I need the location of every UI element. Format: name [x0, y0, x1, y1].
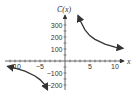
svg-text:−200: −200	[47, 82, 63, 89]
svg-text:300: 300	[51, 22, 63, 29]
y-axis-label: C̄(x)	[57, 5, 72, 14]
svg-text:10: 10	[111, 63, 119, 70]
svg-text:5: 5	[88, 63, 92, 70]
svg-text:−5: −5	[36, 63, 44, 70]
curve-right-branch	[78, 15, 123, 48]
svg-text:200: 200	[51, 34, 63, 41]
svg-text:−100: −100	[47, 70, 63, 77]
y-ticks: 300200100−100−200	[47, 22, 67, 89]
svg-text:100: 100	[51, 46, 63, 53]
x-axis-label: x	[126, 57, 131, 66]
chart: −10−5510 300200100−100−200 x C̄(x)	[0, 0, 135, 109]
